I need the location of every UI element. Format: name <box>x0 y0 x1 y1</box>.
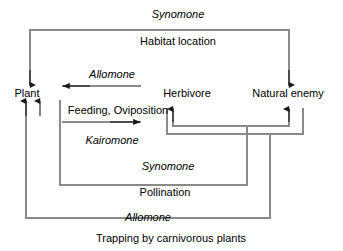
ecology-signal-diagram: Plant Herbivore Natural enemy Synomone H… <box>0 0 343 251</box>
edge-synomone-branch-enemy <box>247 108 289 126</box>
edge-synomone-branch-herbivore <box>173 108 247 126</box>
edge-label-kairomone: Kairomone <box>85 134 138 146</box>
edge-allomone-to-plant-bottom <box>26 100 270 218</box>
edge-label-pollination: Pollination <box>140 186 191 198</box>
node-label-herbivore: Herbivore <box>163 87 211 99</box>
edge-label-feeding-oviposition: Feeding, Oviposition <box>68 104 168 116</box>
edge-label-synomone-top: Synomone <box>152 8 205 20</box>
edge-label-allomone-mid: Allomone <box>89 68 135 80</box>
node-label-natural-enemy: Natural enemy <box>252 87 324 99</box>
edge-outer-branch-herbivore <box>167 108 270 134</box>
diagram-caption: Trapping by carnivorous plants <box>96 232 246 244</box>
node-label-plant: Plant <box>14 87 39 99</box>
edge-label-allomone-bottom: Allomone <box>125 211 171 223</box>
edge-outer-branch-enemy <box>270 108 303 134</box>
edge-label-habitat-location: Habitat location <box>140 35 216 47</box>
edge-label-synomone-lower: Synomone <box>142 160 195 172</box>
